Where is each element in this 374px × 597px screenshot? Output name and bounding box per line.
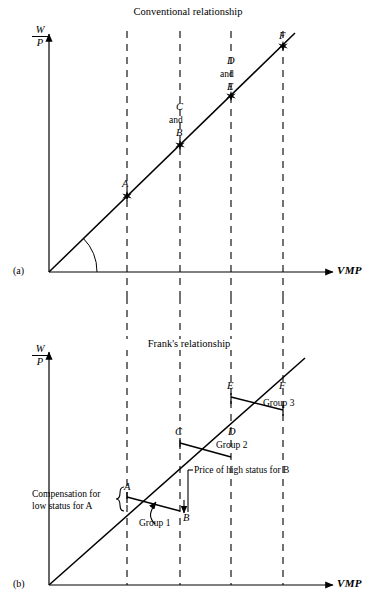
panel-a-x-axis-label: VMP — [337, 265, 362, 276]
panel-a-tag: (a) — [13, 266, 24, 276]
panel-b-compensation-brace — [116, 487, 124, 511]
panel-a-graph — [49, 31, 333, 297]
panel-a-label-and-cb: and — [169, 116, 183, 126]
panel-b-group-label-3: Group 3 — [263, 399, 294, 409]
panel-b-y-axis-numerator: W — [32, 343, 48, 354]
panel-b-y-axis-denominator: P — [32, 356, 48, 367]
panel-b-tag: (b) — [13, 579, 25, 589]
panel-b-compensation-annotation-line2: low status for A — [32, 501, 100, 513]
panel-a-label-c: C — [176, 102, 183, 113]
panel-a-label-b: B — [176, 128, 182, 139]
panel-a-y-axis-label: W P — [32, 24, 48, 48]
figure-root: Conventional relationship W P VMP (a) A … — [0, 0, 374, 597]
panel-a-y-axis-numerator: W — [32, 24, 48, 35]
panel-a-title: Conventional relationship — [118, 7, 258, 18]
panel-a-label-and-de: and — [220, 70, 234, 80]
panel-a-y-axis-denominator: P — [32, 37, 48, 48]
panel-b-label-c: C — [175, 427, 182, 438]
panel-a-label-f: F — [279, 31, 285, 42]
panel-b-label-b: B — [183, 513, 189, 524]
panel-b-label-e: E — [227, 381, 233, 392]
panel-b-title: Frank's relationship — [122, 339, 256, 350]
panel-a-wage-line — [49, 33, 295, 272]
panel-b-label-a: A — [124, 482, 130, 493]
panel-b-compensation-annotation: Compensation for low status for A — [32, 489, 100, 513]
panel-b-group-label-1: Group 1 — [139, 519, 170, 529]
panel-a-label-e: E — [227, 82, 233, 93]
panel-a-label-d: D — [227, 56, 235, 67]
panel-b-price-annotation: Price of high status for B — [194, 466, 289, 476]
panel-b-y-axis-label: W P — [32, 343, 48, 367]
panel-b-compensation-annotation-line1: Compensation for — [32, 489, 100, 501]
panel-b-group-label-2: Group 2 — [216, 441, 247, 451]
panel-a-angle-arc — [83, 238, 97, 272]
panel-b-label-f: F — [279, 381, 285, 392]
panel-a-label-a: A — [122, 179, 128, 190]
panel-a-point-f — [278, 41, 288, 51]
panel-b-x-axis-label: VMP — [337, 578, 362, 589]
panel-b-label-d: D — [228, 427, 236, 438]
